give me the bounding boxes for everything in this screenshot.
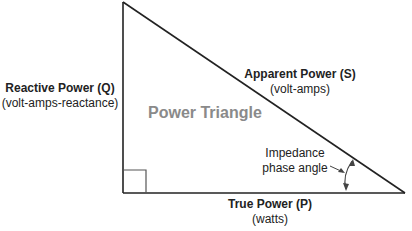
right-angle-marker — [123, 170, 146, 193]
impedance-angle-line2: phase angle — [255, 161, 335, 176]
arc-arrowhead-bottom — [343, 183, 349, 191]
apparent-power-unit: (volt-amps) — [240, 82, 360, 97]
true-power-unit: (watts) — [210, 212, 330, 227]
impedance-angle-label: Impedance phase angle — [255, 146, 335, 176]
reactive-power-name: Reactive Power (Q) — [0, 81, 120, 96]
reactive-power-unit: (volt-amps-reactance) — [0, 96, 120, 111]
reactive-power-label: Reactive Power (Q) (volt-amps-reactance) — [0, 81, 120, 111]
apparent-power-label: Apparent Power (S) (volt-amps) — [240, 67, 360, 97]
apparent-power-name: Apparent Power (S) — [240, 67, 360, 82]
diagram-title: Power Triangle — [148, 104, 262, 122]
impedance-angle-line1: Impedance — [255, 146, 335, 161]
true-power-name: True Power (P) — [210, 197, 330, 212]
true-power-label: True Power (P) (watts) — [210, 197, 330, 227]
arc-arrowhead-top — [349, 159, 355, 166]
